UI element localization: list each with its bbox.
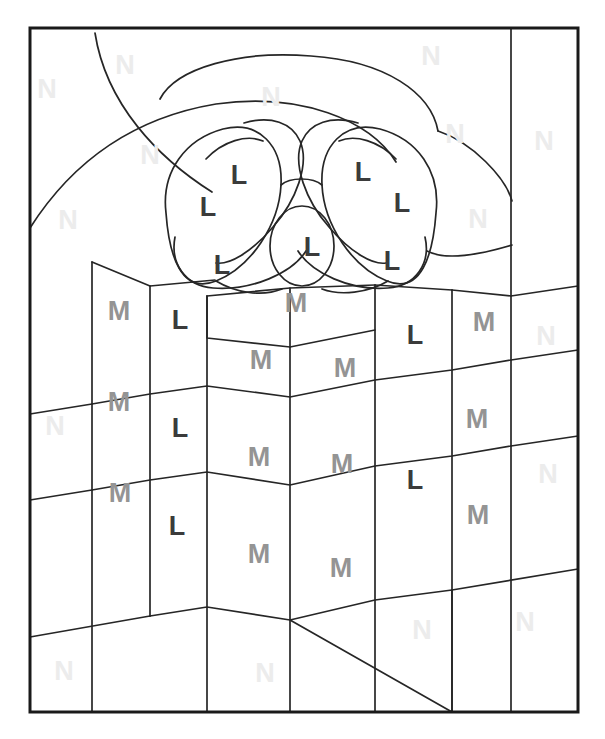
coloring-worksheet: NNNNNNNNNNNNNNNNLLLLLLLLLLLLMMMMMMMMMMMM… xyxy=(0,0,605,739)
letter-code-m: M xyxy=(330,553,353,583)
letter-code-l: L xyxy=(200,192,217,222)
letter-code-m: M xyxy=(248,442,271,472)
page-background xyxy=(0,0,605,739)
letter-code-m: M xyxy=(248,539,271,569)
letter-code-l: L xyxy=(169,511,186,541)
letter-code-m: M xyxy=(466,404,489,434)
letter-code-n: N xyxy=(37,74,57,104)
letter-code-n: N xyxy=(54,656,74,686)
letter-code-m: M xyxy=(467,500,490,530)
letter-code-n: N xyxy=(536,321,556,351)
letter-code-n: N xyxy=(255,658,275,688)
letter-code-l: L xyxy=(172,413,189,443)
letter-code-n: N xyxy=(140,140,160,170)
letter-code-l: L xyxy=(407,320,424,350)
letter-code-n: N xyxy=(115,50,135,80)
letter-code-l: L xyxy=(384,246,401,276)
letter-code-m: M xyxy=(108,296,131,326)
letter-code-l: L xyxy=(355,157,372,187)
coloring-canvas: NNNNNNNNNNNNNNNNLLLLLLLLLLLLMMMMMMMMMMMM… xyxy=(0,0,605,739)
letter-code-m: M xyxy=(331,449,354,479)
letter-code-m: M xyxy=(285,288,308,318)
letter-code-n: N xyxy=(445,119,465,149)
letter-code-m: M xyxy=(108,387,131,417)
letter-code-m: M xyxy=(109,478,132,508)
letter-code-l: L xyxy=(407,465,424,495)
letter-code-n: N xyxy=(515,607,535,637)
letter-code-n: N xyxy=(534,126,554,156)
letter-code-m: M xyxy=(473,307,496,337)
letter-code-n: N xyxy=(468,204,488,234)
letter-code-m: M xyxy=(334,353,357,383)
letter-code-l: L xyxy=(172,305,189,335)
letter-code-n: N xyxy=(412,615,432,645)
letter-code-n: N xyxy=(58,205,78,235)
letter-code-l: L xyxy=(231,160,248,190)
letter-code-l: L xyxy=(304,232,321,262)
letter-code-n: N xyxy=(538,459,558,489)
letter-code-n: N xyxy=(261,82,281,112)
letter-code-l: L xyxy=(394,188,411,218)
letter-code-m: M xyxy=(250,345,273,375)
letter-code-l: L xyxy=(214,250,231,280)
letter-code-n: N xyxy=(421,41,441,71)
letter-code-n: N xyxy=(45,411,65,441)
